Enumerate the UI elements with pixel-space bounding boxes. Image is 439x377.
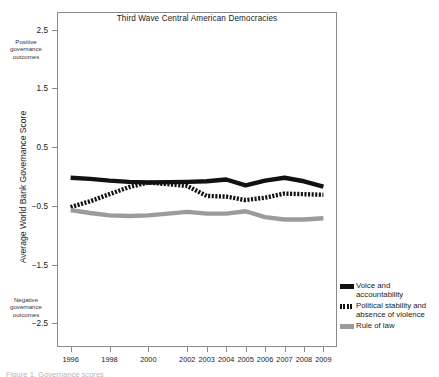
legend-label: Rule of law [356, 321, 395, 330]
y-tick-mark [52, 147, 57, 148]
x-tick-mark [226, 347, 227, 352]
y-tick-mark [52, 30, 57, 31]
positive-governance-note: Positive governance outcomes [2, 38, 50, 60]
y-axis-title: Average World Bank Governance Score [18, 92, 28, 282]
x-tick-mark [265, 347, 266, 352]
x-tick-mark [187, 347, 188, 352]
chart-title: Third Wave Central American Democracies [57, 14, 337, 23]
legend-swatch-icon [340, 284, 354, 289]
legend-label: Voice and accountability [356, 281, 439, 300]
x-tick-mark [110, 347, 111, 352]
plot-area [57, 12, 337, 347]
y-tick-mark [52, 88, 57, 89]
y-tick-label: −1.5 [18, 260, 48, 269]
x-tick-label: 2000 [133, 355, 163, 364]
legend-item[interactable]: Voice and accountability [340, 281, 439, 300]
y-tick-label: 0.5 [18, 143, 48, 152]
footer-caption: Figure 1. Governance scores [6, 370, 306, 377]
y-tick-label: 2.5 [18, 25, 48, 34]
legend-item[interactable]: Political stability and absence of viole… [340, 301, 439, 320]
x-tick-mark [323, 347, 324, 352]
chart-legend: Voice and accountabilityPolitical stabil… [340, 281, 439, 331]
x-tick-mark [71, 347, 72, 352]
x-tick-label: 1996 [56, 355, 86, 364]
x-tick-mark [304, 347, 305, 352]
legend-label: Political stability and absence of viole… [356, 301, 439, 320]
x-tick-mark [148, 347, 149, 352]
legend-swatch-icon [340, 324, 354, 329]
chart-figure: Third Wave Central American Democracies … [0, 0, 439, 377]
legend-item[interactable]: Rule of law [340, 321, 439, 330]
x-tick-label: 1998 [95, 355, 125, 364]
y-tick-label: −0.5 [18, 201, 48, 210]
y-tick-label: −2.5 [18, 319, 48, 328]
y-tick-mark [52, 206, 57, 207]
x-tick-mark [246, 347, 247, 352]
legend-swatch-icon [340, 304, 354, 309]
negative-governance-note: Negative governance outcomes [2, 296, 50, 318]
y-tick-mark [52, 265, 57, 266]
y-tick-label: 1.5 [18, 84, 48, 93]
x-tick-mark [285, 347, 286, 352]
y-tick-mark [52, 323, 57, 324]
x-tick-label: 2009 [308, 355, 338, 364]
x-tick-mark [207, 347, 208, 352]
